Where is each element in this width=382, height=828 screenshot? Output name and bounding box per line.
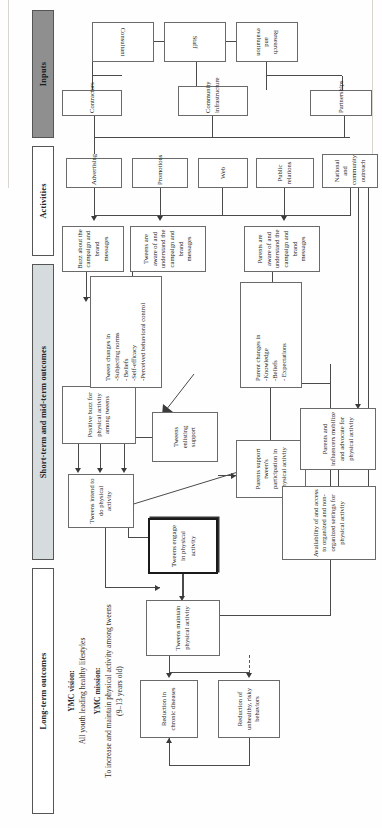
node-label: Community infrastructure bbox=[204, 89, 221, 113]
connector-inputs-bus bbox=[94, 137, 350, 138]
node-label: Public relations bbox=[276, 161, 293, 185]
node-tweens-enlisting-support: Tweens enlisting support bbox=[152, 412, 218, 462]
arrowhead bbox=[121, 468, 127, 473]
connector-buzz-to-tween-changes bbox=[86, 272, 87, 298]
node-input-partnerships: Partnerships bbox=[310, 90, 372, 116]
scan-artifact-line bbox=[8, 0, 9, 188]
node-input-staff: Staff bbox=[164, 22, 226, 62]
connector-maintain-to-chronic bbox=[169, 656, 170, 673]
band-label: Activities bbox=[39, 183, 48, 218]
node-input-contractors: Contractors bbox=[62, 90, 122, 116]
node-tween-changes: Tween changes in -Subjecting norms - Bel… bbox=[90, 276, 162, 388]
node-reduction-chronic-diseases: Reduction in chronic diseases bbox=[140, 680, 198, 738]
node-activity-advertising: Advertising bbox=[66, 158, 122, 188]
node-label: Buzz about the campaign and brand messag… bbox=[76, 229, 111, 269]
node-label: Partnerships bbox=[337, 93, 346, 113]
node-label: Contractors bbox=[88, 93, 97, 113]
node-label: Promotions bbox=[156, 161, 165, 185]
node-label: Parents and influencers mobilize and adv… bbox=[321, 411, 356, 467]
connector-risky-out bbox=[249, 738, 250, 766]
node-label: Availability of and access to organized … bbox=[312, 489, 347, 557]
node-label: Web bbox=[219, 161, 228, 185]
band-label: Inputs bbox=[39, 62, 48, 86]
connector-partnerships-research-riser bbox=[266, 75, 342, 76]
node-tweens-intend-physical-activity: Tweens intend to do physical activity bbox=[68, 474, 134, 528]
node-buzz-about-campaign: Buzz about the campaign and brand messag… bbox=[62, 226, 124, 272]
connector-infra-bus bbox=[212, 116, 213, 138]
connector-mobilize-to-availability bbox=[338, 470, 339, 486]
band-header-activities: Activities bbox=[32, 146, 54, 256]
node-label: Tweens maintain physical activity bbox=[174, 603, 191, 653]
node-tweens-aware-campaign: Tweens are aware of and understand the c… bbox=[130, 226, 206, 272]
connector-promotions-out bbox=[160, 188, 161, 216]
node-input-community-infrastructure: Community infrastructure bbox=[178, 86, 248, 116]
node-availability-access-settings: Availability of and access to organized … bbox=[282, 486, 376, 560]
band-header-short-mid: Short-term and mid-term outcomes bbox=[32, 264, 54, 560]
node-label: National and community outreach bbox=[333, 157, 368, 185]
connector-partnerships-to-research bbox=[266, 62, 267, 90]
connector-consultant-staff bbox=[154, 41, 164, 42]
node-label: Reduction in chronic diseases bbox=[160, 683, 177, 735]
arrowhead bbox=[166, 738, 172, 743]
connector-partnerships-bus bbox=[344, 116, 345, 138]
node-label: Tweens are aware of and understand the c… bbox=[142, 229, 194, 269]
node-reduction-risky-behaviors: Reduction of unhealthy, risky behaviors bbox=[218, 680, 280, 738]
connector-parent-changes-to-mobilize bbox=[330, 384, 331, 408]
arrowhead bbox=[75, 468, 81, 473]
connector-bus-to-activities bbox=[94, 138, 95, 154]
node-label: Reduction of unhealthy, risky behaviors bbox=[236, 683, 262, 735]
band-header-long-term: Long-term outcomes bbox=[32, 568, 54, 814]
mission-statement-block: YMC vision: All youth leading healthy li… bbox=[66, 568, 125, 814]
band-label: Short-term and mid-term outcomes bbox=[39, 346, 48, 478]
node-label: Research and evaluation bbox=[254, 25, 280, 59]
connector-pr-out bbox=[284, 188, 285, 216]
arrowhead bbox=[155, 585, 160, 591]
node-activity-web: Web bbox=[198, 158, 248, 188]
connector-intend-engage-drop bbox=[105, 587, 160, 588]
node-label: Tween changes in -Subjecting norms - Bel… bbox=[104, 279, 148, 385]
connector-advertising-out bbox=[94, 188, 95, 216]
mission-title: YMC mission: bbox=[92, 568, 103, 814]
node-label: Advertising bbox=[90, 161, 99, 185]
arrowhead bbox=[91, 216, 97, 221]
node-label: Tweens engage in physical activity bbox=[169, 522, 196, 570]
connector-web-out bbox=[222, 188, 223, 216]
connector-parents-aware-to-changes bbox=[272, 272, 273, 282]
band-header-inputs: Inputs bbox=[32, 10, 54, 138]
node-tweens-maintain-physical-activity: Tweens maintain physical activity bbox=[146, 600, 220, 656]
connector-contractors-consultant-drop bbox=[92, 75, 122, 76]
arrowhead bbox=[83, 297, 89, 302]
connector-vertical-maintain-branch bbox=[169, 672, 249, 673]
node-input-consultant: Consultant bbox=[92, 22, 154, 62]
connector-contractors-bus bbox=[94, 116, 95, 138]
node-label: Consultant bbox=[119, 25, 128, 59]
connector-activities-bus bbox=[94, 215, 350, 216]
node-label: Parent changes in -Knowledge -Beliefs - … bbox=[254, 285, 289, 385]
node-label: Tweens intend to do physical activity bbox=[88, 477, 114, 525]
connector-engage-to-maintain bbox=[182, 574, 184, 596]
connector-dashed-to-risky bbox=[249, 655, 250, 673]
mission-detail: (9–13 years old) bbox=[114, 568, 125, 814]
connector-intend-engage-link bbox=[105, 528, 106, 588]
connector-outreach-to-availability bbox=[368, 188, 369, 522]
connector-infra-to-staff bbox=[196, 62, 197, 86]
connector-staff-research bbox=[226, 41, 236, 42]
node-activity-national-community-outreach: National and community outreach bbox=[322, 154, 378, 188]
arrowhead-dashed bbox=[246, 673, 252, 678]
mission-text: To increase and maintain physical activi… bbox=[103, 568, 114, 814]
vision-title: YMC vision: bbox=[66, 568, 77, 814]
node-label: Staff bbox=[191, 25, 200, 59]
node-parents-aware-campaign: Parents are aware of and understand the … bbox=[244, 226, 320, 272]
connector-parent-changes-riser bbox=[300, 383, 330, 384]
connector-parent-changes-to-support bbox=[270, 388, 271, 440]
connector-risky-riser bbox=[169, 765, 249, 766]
node-label: Positive buzz for physical activity amon… bbox=[86, 389, 112, 441]
arrowhead bbox=[166, 673, 172, 678]
node-parents-influencers-mobilize: Parents and influencers mobilize and adv… bbox=[300, 408, 376, 470]
node-activity-public-relations: Public relations bbox=[256, 158, 314, 188]
node-input-research-evaluation: Research and evaluation bbox=[236, 22, 298, 62]
connector-outreach-to-mobilize bbox=[358, 188, 359, 404]
arrowhead bbox=[97, 468, 103, 473]
diagram-canvas: Long-term outcomes Short-term and mid-te… bbox=[0, 0, 382, 828]
logic-model-stage: Long-term outcomes Short-term and mid-te… bbox=[0, 0, 382, 828]
